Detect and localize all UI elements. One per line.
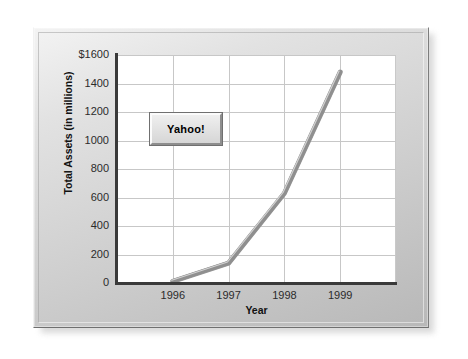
x-tick-label: 1997 xyxy=(199,289,259,301)
x-tick-label: 1996 xyxy=(143,289,203,301)
series-line-yahoo xyxy=(117,55,396,283)
x-tick-label: 1998 xyxy=(254,289,314,301)
x-tick-label: 1999 xyxy=(310,289,370,301)
y-axis-line xyxy=(115,53,118,285)
legend-label: Yahoo! xyxy=(167,123,205,135)
x-axis-line xyxy=(115,282,397,285)
line-chart: $16001400120010008006004002000 199619971… xyxy=(33,27,429,328)
legend-box-yahoo[interactable]: Yahoo! xyxy=(150,113,222,145)
y-tick-label: 400 xyxy=(37,219,109,231)
y-tick-label: 0 xyxy=(37,276,109,288)
chart-screenshot: $16001400120010008006004002000 199619971… xyxy=(0,0,468,359)
y-tick-label: 200 xyxy=(37,248,109,260)
y-axis-title: Total Assets (in millions) xyxy=(62,53,74,213)
x-axis-title: Year xyxy=(117,304,396,316)
